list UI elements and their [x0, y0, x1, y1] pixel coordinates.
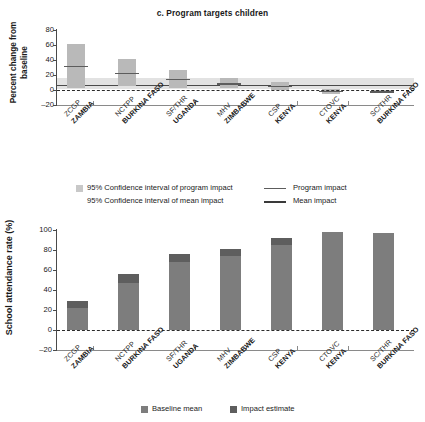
legend-label-mean-impact: Mean impact [293, 196, 336, 205]
legend-row-1: 95% Confidence interval of program impac… [0, 183, 425, 195]
program-impact-line-nctpp-burkina-faso [115, 73, 139, 74]
program-impact-line-csp-kenya [268, 86, 292, 87]
legend-label-program-impact: Program impact [293, 183, 347, 192]
bar-baseline-ctovc-kenya [322, 232, 343, 330]
top-chart-y-axis-label: Percent change from baseline [9, 18, 30, 108]
bar-baseline-sfthr-uganda [169, 262, 190, 330]
legend-label-program-ci: 95% Confidence interval of program impac… [87, 183, 233, 192]
legend-swatch-mean-ci-icon [76, 198, 83, 205]
figure-panel-c: c. Program targets children Percent chan… [0, 0, 425, 422]
y-tick-80: 80 [34, 26, 54, 34]
legend-label-baseline-mean: Baseline mean [152, 404, 202, 413]
bar-impact-zcgp-zambia [67, 301, 88, 308]
legend-line-mean-impact-icon [264, 201, 286, 203]
y-axis-label-line-1: Percent change from [9, 22, 18, 103]
program-impact-line-zcgp-zambia [64, 66, 88, 67]
bottom-chart-y-ticks: 100 80 60 40 20 0 –20 [26, 212, 52, 422]
program-impact-line-mhv-zimbabwe [217, 83, 241, 84]
zero-reference-line [57, 330, 414, 331]
bottom-chart-legend: Baseline mean Impact estimate [0, 402, 425, 420]
top-chart: c. Program targets children Percent chan… [0, 0, 425, 180]
y-tick-60: 60 [34, 41, 54, 49]
top-chart-legend: 95% Confidence interval of program impac… [0, 183, 425, 211]
legend-label-impact-estimate: Impact estimate [241, 404, 295, 413]
y-tick-neg20: –20 [32, 346, 52, 354]
x-tick-5 [297, 101, 298, 105]
program-impact-line-ctovc-kenya [319, 91, 343, 92]
x-tick-5 [297, 346, 298, 350]
legend-swatch-impact-estimate-icon [230, 406, 237, 413]
bar-impact-nctpp-burkina-faso [118, 274, 139, 283]
legend-row-2: 95% Confidence interval of mean impact M… [0, 196, 425, 208]
y-tick-80: 80 [32, 246, 52, 254]
y-tick-0: 0 [34, 86, 54, 94]
y-tick-20: 20 [32, 306, 52, 314]
bar-baseline-nctpp-burkina-faso [118, 283, 139, 330]
bottom-chart-y-axis-label: School attendance rate (%) [4, 213, 15, 343]
bar-baseline-csp-kenya [271, 245, 292, 330]
y-axis-label-line-2: baseline [19, 46, 28, 79]
bar-baseline-zcgp-zambia [67, 308, 88, 330]
legend-label-mean-ci: 95% Confidence interval of mean impact [87, 196, 223, 205]
top-chart-y-ticks: 80 60 40 20 0 –20 [28, 0, 54, 180]
bar-impact-sfthr-uganda [169, 254, 190, 262]
bar-baseline-mhv-zimbabwe [220, 256, 241, 330]
y-tick-60: 60 [32, 266, 52, 274]
x-tick-6 [348, 346, 349, 350]
legend-swatch-program-ci-icon [76, 185, 83, 192]
y-tick-0: 0 [32, 326, 52, 334]
y-tick-100: 100 [32, 226, 52, 234]
bar-impact-csp-kenya [271, 238, 292, 245]
bar-baseline-scthr-burkina-faso [373, 233, 394, 330]
bar-impact-mhv-zimbabwe [220, 249, 241, 256]
bottom-chart: School attendance rate (%) 100 80 60 40 … [0, 212, 425, 422]
y-tick-40: 40 [32, 286, 52, 294]
y-tick-20: 20 [34, 71, 54, 79]
y-tick-40: 40 [34, 56, 54, 64]
x-tick-6 [348, 101, 349, 105]
bottom-chart-plot-area [57, 212, 414, 422]
program-impact-line-sfthr-uganda [166, 79, 190, 80]
legend-swatch-baseline-mean-icon [141, 406, 148, 413]
y-tick-neg20: –20 [34, 101, 54, 109]
legend-line-program-impact-icon [264, 188, 286, 189]
